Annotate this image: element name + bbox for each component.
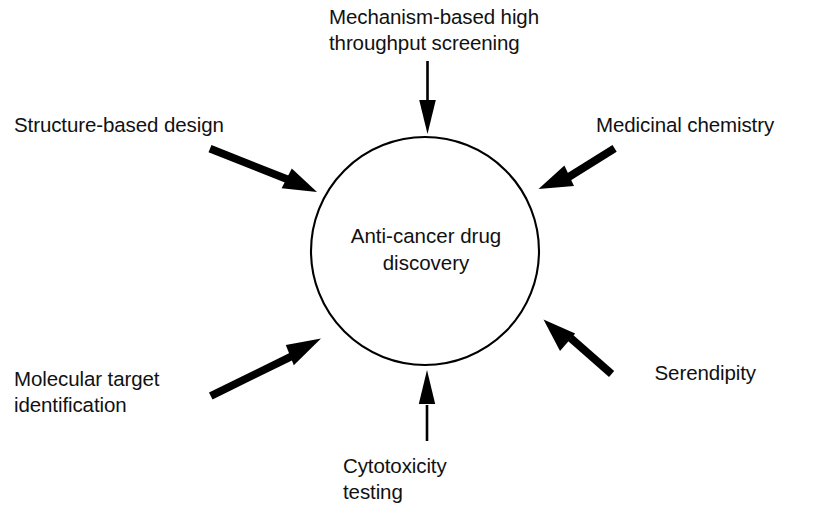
arrow-top <box>419 61 436 134</box>
arrow-upper-left <box>209 145 318 192</box>
node-label-medicinal-chemistry: Medicinal chemistry <box>596 112 824 138</box>
node-label-mechanism-based-high-throughput-screening: Mechanism-based high throughput screenin… <box>329 4 591 56</box>
node-label-cytotoxicity-testing: Cytotoxicity testing <box>343 453 543 505</box>
node-label-serendipity: Serendipity <box>580 360 756 386</box>
diagram-canvas: Anti-cancer drug discovery Mechanism-bas… <box>0 0 824 517</box>
arrow-upper-right <box>539 145 617 189</box>
node-label-structure-based-design: Structure-based design <box>14 112 274 138</box>
arrow-bottom <box>419 370 435 441</box>
center-label: Anti-cancer drug discovery <box>313 222 539 276</box>
node-label-molecular-target-identification: Molecular target identification <box>14 366 254 418</box>
